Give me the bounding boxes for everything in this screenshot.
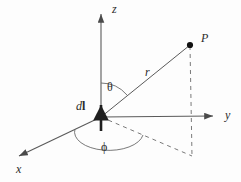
z-axis-label: z: [112, 3, 117, 15]
dashed-vertical-projection: [190, 46, 192, 156]
radius-line: [101, 45, 190, 117]
phi-arc: [75, 129, 143, 150]
point-p-marker: [187, 42, 193, 48]
x-axis-line: [19, 117, 101, 156]
y-axis-label: y: [225, 109, 230, 121]
theta-label: θ: [107, 81, 113, 93]
current-element-vector: l: [82, 99, 85, 113]
spherical-coordinate-diagram: z y x P r θ ϕ dl: [0, 0, 241, 182]
diagram-canvas: [0, 0, 241, 182]
radius-label: r: [145, 66, 150, 78]
x-axis-label: x: [16, 163, 21, 175]
y-axis-line: [101, 116, 213, 117]
phi-label: ϕ: [101, 141, 107, 153]
current-element-label: dl: [76, 100, 85, 112]
theta-arc: [101, 83, 127, 95]
point-p-label: P: [201, 32, 208, 44]
